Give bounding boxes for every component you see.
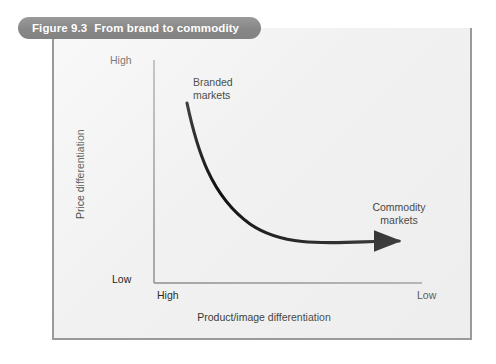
chart-svg — [54, 28, 474, 340]
annotation-branded-markets-line2: markets — [193, 89, 233, 102]
annotation-commodity-markets-line1: Commodity — [354, 201, 444, 214]
annotation-branded-markets-line1: Branded — [193, 76, 233, 89]
x-axis-title: Product/image differentiation — [54, 311, 474, 324]
annotation-commodity-markets: Commodity markets — [354, 201, 444, 226]
figure-title: From brand to commodity — [94, 22, 239, 34]
x-axis-tick-low: Low — [417, 289, 436, 302]
figure-number: Figure 9.3 — [32, 22, 87, 34]
y-axis-tick-low: Low — [112, 273, 131, 286]
figure-title-banner: Figure 9.3 From brand to commodity — [18, 17, 261, 39]
figure-frame: High Low High Low Product/image differen… — [52, 28, 472, 340]
annotation-commodity-markets-line2: markets — [354, 214, 444, 227]
chart-plot-area: High Low High Low Product/image differen… — [54, 28, 474, 340]
y-axis-tick-high: High — [110, 54, 132, 67]
annotation-branded-markets: Branded markets — [193, 76, 233, 101]
y-axis-title: Price differentiation — [74, 94, 87, 254]
x-axis-tick-high: High — [157, 289, 179, 302]
